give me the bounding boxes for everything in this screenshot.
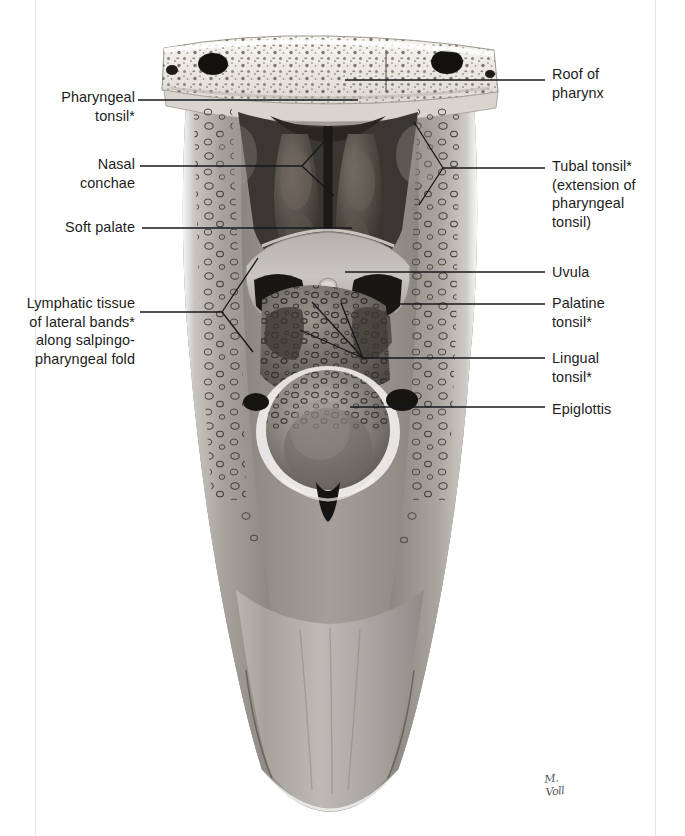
tubal-tonsil [396, 125, 440, 185]
artist-signature: M. Voll [544, 771, 565, 799]
pyriform-recess-left [243, 393, 269, 411]
label-roof-of-pharynx: Roof of pharynx [552, 65, 672, 102]
label-palatine-tonsil: Palatine tonsil* [552, 294, 672, 331]
label-epiglottis: Epiglottis [552, 400, 672, 419]
pyriform-recess-right [386, 389, 418, 411]
label-lymphatic-tissue-lateral-bands: Lymphatic tissue of lateral bands* along… [10, 294, 135, 368]
label-soft-palate: Soft palate [18, 218, 135, 237]
label-tubal-tonsil: Tubal tonsil* (extension of pharyngeal t… [552, 157, 678, 231]
foramen-left [198, 53, 228, 75]
label-uvula: Uvula [552, 263, 672, 282]
label-pharyngeal-tonsil: Pharyngeal tonsil* [30, 88, 135, 125]
anatomical-plate: M. Voll Pharyngeal tonsil* Nasal c [0, 0, 685, 836]
label-nasal-conchae: Nasal conchae [30, 155, 135, 192]
page-edge-left [35, 0, 36, 836]
label-lingual-tonsil: Lingual tonsil* [552, 349, 672, 386]
foramen-right [431, 50, 463, 74]
pharynx-illustration: M. Voll [150, 30, 510, 820]
